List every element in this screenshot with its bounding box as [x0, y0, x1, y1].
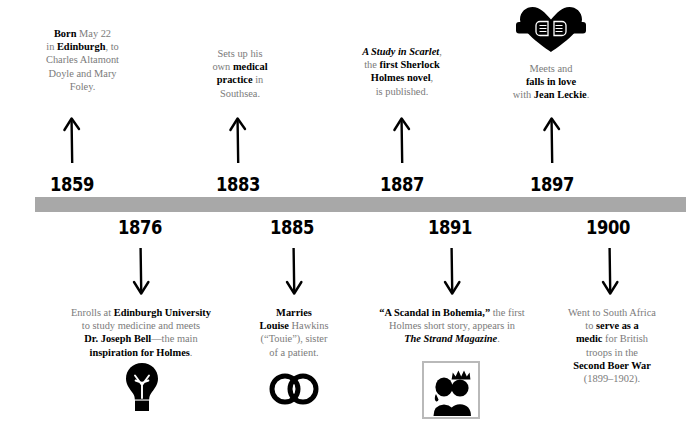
arrow-up-1897: [540, 108, 564, 163]
arrow-down-1876: [129, 248, 153, 304]
arrow-up-1883: [226, 108, 250, 163]
event-text-1885: MarriesLouise Hawkins(“Touie”), sisterof…: [246, 306, 342, 359]
arrow-up-1887: [390, 108, 414, 163]
year-label-1900: 1900: [574, 216, 643, 238]
timeline-infographic: Born May 22in Edinburgh, toCharles Altam…: [0, 0, 686, 425]
portrait-silhouettes-icon: [427, 366, 477, 416]
event-text-1897: Meets andfalls in lovewith Jean Leckie.: [489, 62, 613, 102]
arrow-down-1885: [282, 248, 306, 304]
arrow-down-1900: [598, 248, 622, 304]
event-text-1900: Went to South Africato serve as amedic f…: [546, 306, 678, 385]
wedding-rings-icon: [268, 372, 320, 406]
heart-handshake-icon: [514, 5, 588, 53]
year-label-1885: 1885: [258, 216, 327, 238]
framed-portrait-icon: [422, 361, 480, 419]
year-label-1859: 1859: [38, 173, 107, 195]
timeline-bar: [35, 197, 686, 212]
year-label-1891: 1891: [416, 216, 485, 238]
year-label-1876: 1876: [106, 216, 175, 238]
event-text-1883: Sets up hisown medicalpractice inSouthse…: [188, 47, 292, 100]
lightbulb-icon: [124, 362, 160, 412]
year-label-1897: 1897: [518, 173, 587, 195]
event-text-1887: A Study in Scarlet,the first SherlockHol…: [328, 45, 476, 98]
arrow-down-1891: [440, 248, 464, 304]
event-text-1891: “A Scandal in Bohemia,” the firstHolmes …: [332, 306, 572, 346]
arrow-up-1859: [60, 108, 84, 163]
year-label-1887: 1887: [368, 173, 437, 195]
event-text-1876: Enrolls at Edinburgh Universityto study …: [24, 306, 258, 359]
event-text-1859: Born May 22in Edinburgh, toCharles Altam…: [20, 27, 145, 93]
year-label-1883: 1883: [204, 173, 273, 195]
